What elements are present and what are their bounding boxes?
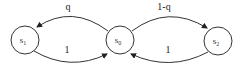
edge-label-s1-s0: 1 bbox=[65, 44, 70, 55]
node-s0: s0 bbox=[106, 26, 134, 54]
edge-label-q: q bbox=[66, 1, 71, 12]
edge-s0-to-s1 bbox=[37, 16, 108, 31]
node-s2: s2 bbox=[204, 27, 232, 55]
edge-s1-to-s0 bbox=[34, 51, 107, 62]
edge-label-1-q: 1-q bbox=[157, 1, 170, 12]
node-s1: s1 bbox=[11, 26, 39, 54]
state-diagram: q 1 1-q 1 s1 s0 s2 bbox=[0, 0, 245, 66]
edge-s0-to-s2 bbox=[132, 17, 207, 31]
edge-label-s2-s0: 1 bbox=[166, 44, 171, 55]
